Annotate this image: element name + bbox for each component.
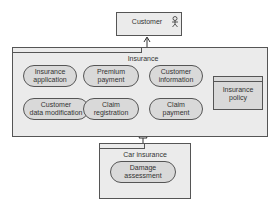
customer-label: Customer bbox=[127, 18, 167, 25]
insurance-policy-object[interactable]: Insurance policy bbox=[213, 76, 263, 110]
service-insurance-application[interactable]: Insurance application bbox=[23, 65, 77, 87]
service-damage-assessment[interactable]: Damage assessment bbox=[110, 161, 176, 183]
service-premium-payment[interactable]: Premium payment bbox=[83, 65, 139, 87]
customer-box[interactable]: Customer bbox=[116, 12, 182, 36]
service-customer-information[interactable]: Customer information bbox=[149, 65, 203, 87]
actor-icon bbox=[171, 16, 179, 28]
insurance-box[interactable]: Insurance Insurance application Premium … bbox=[12, 47, 268, 137]
car-insurance-label: Car insurance bbox=[110, 151, 180, 158]
car-insurance-tab bbox=[99, 143, 145, 149]
object-header-bar bbox=[214, 77, 262, 82]
service-customer-data-modification[interactable]: Customer data modification bbox=[23, 98, 89, 120]
insurance-policy-label: Insurance policy bbox=[214, 86, 262, 102]
service-claim-payment[interactable]: Claim payment bbox=[149, 98, 203, 120]
car-insurance-box[interactable]: Car insurance Damage assessment bbox=[99, 143, 191, 199]
insurance-label: Insurance bbox=[113, 55, 173, 62]
insurance-tab bbox=[12, 47, 142, 53]
service-claim-registration[interactable]: Claim registration bbox=[83, 98, 139, 120]
